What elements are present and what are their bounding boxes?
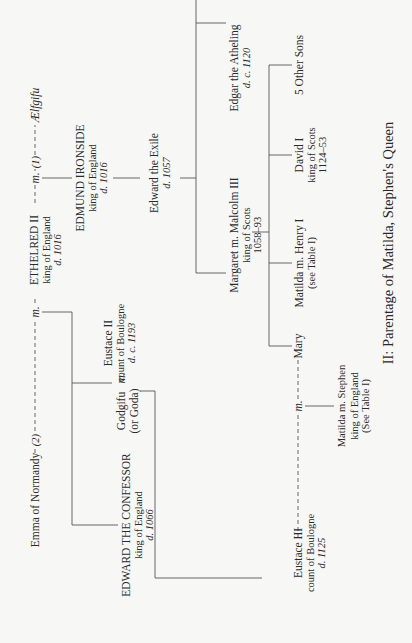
david-reign: 1124–53 (317, 127, 329, 182)
godgifu-name: Godgifu (115, 388, 128, 433)
matilda-henry-note: (see Table I) (306, 219, 318, 308)
godgifu-alt: (or Goda) (128, 388, 141, 433)
marriage-order-second: (2) (30, 434, 41, 446)
ethelred-death: d. 1016 (52, 215, 64, 285)
person-margaret-malcolm: Margaret m. Malcolm III king of Scots 10… (228, 177, 264, 292)
edmund-title: king of England (87, 124, 99, 231)
person-other-sons: 5 Other Sons (293, 35, 306, 95)
table-caption: II: Parentage of Matilda, Stephen's Quee… (380, 122, 397, 365)
person-ethelred: ETHELRED II king of England d. 1016 (28, 215, 64, 285)
confessor-title: king of England (133, 453, 145, 597)
person-eustace2: Eustace II count of Boulogne d. c. 1193 (102, 304, 138, 382)
margaret-malcolm-name: Margaret m. Malcolm III (228, 177, 241, 292)
edgar-name: Edgar the Atheling (228, 25, 241, 112)
person-david: David I king of Scots 1124–53 (293, 127, 329, 182)
person-matilda-henry: Matilda m. Henry I (see Table I) (293, 219, 317, 308)
person-edmund: EDMUND IRONSIDE king of England d. 1016 (74, 124, 110, 231)
connector-lines (0, 0, 412, 643)
person-edgar: Edgar the Atheling d. c. 1120 (228, 25, 252, 112)
confessor-death: d. 1066 (144, 453, 156, 597)
edmund-death: d. 1016 (98, 124, 110, 231)
david-name: David I (293, 127, 306, 182)
edmund-name: EDMUND IRONSIDE (74, 124, 87, 231)
malcolm-reign: 1058–93 (252, 177, 264, 292)
person-eustace3: Eustace III count of Boulogne d. 1125 (292, 514, 328, 592)
eustace2-death: d. c. 1193 (126, 304, 138, 382)
matilda-henry-name: Matilda m. Henry I (293, 219, 306, 308)
marriage-marker: m. (29, 172, 41, 183)
ethelred-title: king of England (41, 215, 53, 285)
person-godgifu: Godgifu (or Goda) (115, 388, 140, 433)
genealogy-table: Emma of Normandy (2) m. ETHELRED II king… (0, 0, 412, 643)
other-sons-name: 5 Other Sons (293, 35, 306, 95)
ethelred-name: ETHELRED II (28, 215, 41, 285)
eustace3-death: d. 1125 (316, 514, 328, 592)
person-confessor: EDWARD THE CONFESSOR king of England d. … (120, 453, 156, 597)
matilda-stephen-title: king of England (349, 365, 361, 448)
person-aelfgifu: Ælfgifu (29, 88, 41, 123)
confessor-name: EDWARD THE CONFESSOR (120, 453, 133, 597)
matilda-stephen-note: (See Table I) (360, 365, 372, 448)
person-mary: Mary (292, 334, 304, 359)
person-exile: Edward the Exile d. 1057 (148, 133, 172, 213)
person-matilda-stephen: Matilda m. Stephen king of England (See … (336, 365, 372, 448)
marriage-marker: m. (29, 306, 41, 317)
malcolm-title: king of Scots (241, 177, 253, 292)
exile-name: Edward the Exile (148, 133, 161, 213)
marriage-marker: m. (292, 400, 304, 411)
marriage-order-first: (1) (30, 156, 41, 168)
exile-death: d. 1057 (161, 133, 173, 213)
eustace3-name: Eustace III (292, 514, 305, 592)
matilda-stephen-name: Matilda m. Stephen (336, 365, 349, 448)
edgar-death: d. c. 1120 (241, 25, 253, 112)
eustace2-name: Eustace II (102, 304, 115, 382)
eustace2-title: count of Boulogne (115, 304, 127, 382)
eustace3-title: count of Boulogne (305, 514, 317, 592)
person-emma: Emma of Normandy (29, 453, 41, 548)
david-title: king of Scots (306, 127, 318, 182)
